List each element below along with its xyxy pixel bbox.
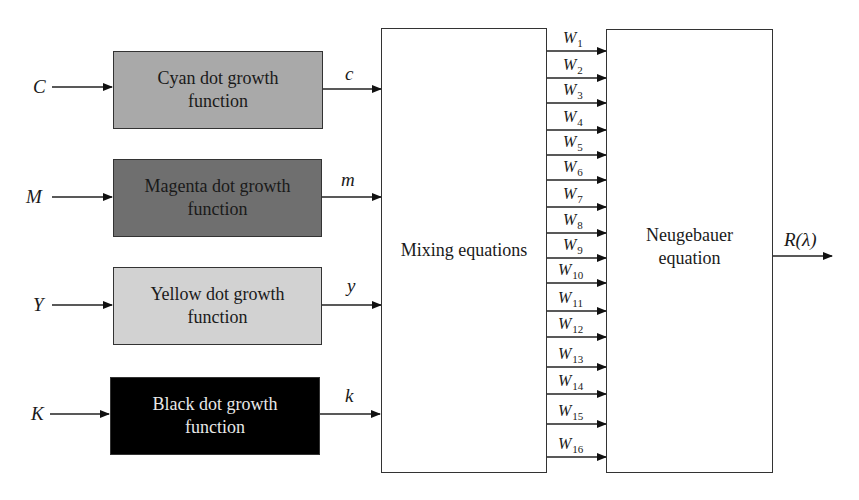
weight-label-w15: W15 [558,403,583,424]
weight-label-w4: W4 [563,109,583,130]
yellow-growth-block: Yellow dot growth function [113,267,322,345]
weight-label-w11: W11 [558,290,583,311]
black-growth-block: Black dot growth function [110,377,320,455]
input-label-k: K [31,404,44,424]
output-label-y: y [347,276,355,296]
weight-label-w14: W14 [558,373,583,394]
weight-label-w2: W2 [563,57,583,78]
weight-label-w1: W1 [563,30,583,51]
output-label-k: k [345,386,353,406]
weight-label-w8: W8 [563,212,583,233]
neugebauer-label-line2: equation [659,247,721,270]
input-label-y: Y [33,295,44,315]
weight-label-w10: W10 [558,262,583,283]
neugebauer-label-line1: Neugebauer [646,224,733,247]
magenta-growth-label: Magenta dot growth function [125,175,310,221]
cyan-growth-block: Cyan dot growth function [113,51,323,129]
yellow-growth-label: Yellow dot growth function [133,283,303,329]
weight-label-w13: W13 [558,346,583,367]
weight-label-w6: W6 [563,159,583,180]
mixing-equations-block: Mixing equations [381,28,547,473]
output-label-c: c [345,64,353,84]
input-label-m: M [26,187,42,207]
weight-label-w3: W3 [563,82,583,103]
weight-label-w9: W9 [563,237,583,258]
neugebauer-equation-block: Neugebauer equation [606,29,773,473]
weight-label-w16: W16 [558,436,583,457]
output-label-r: R(λ) [784,230,817,250]
magenta-growth-block: Magenta dot growth function [113,159,322,237]
weight-label-w7: W7 [563,186,583,207]
output-label-m: m [341,170,355,190]
black-growth-label: Black dot growth function [135,393,295,439]
mixing-equations-label: Mixing equations [401,239,528,262]
input-label-c: C [33,77,46,97]
weight-label-w5: W5 [563,134,583,155]
weight-label-w12: W12 [558,316,583,337]
cyan-growth-label: Cyan dot growth function [133,67,303,113]
